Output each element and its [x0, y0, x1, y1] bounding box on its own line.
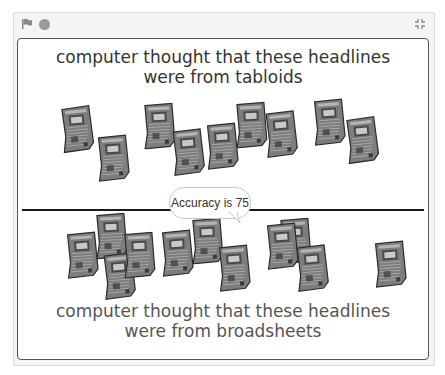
newspaper-sprite-broadsheet[interactable] — [121, 231, 157, 279]
newspaper-sprite-tabloid[interactable] — [58, 104, 97, 153]
flag-icon[interactable] — [21, 18, 33, 30]
tabloid-caption-line2: were from tabloids — [18, 67, 428, 87]
player-controls — [14, 13, 434, 35]
newspaper-sprite-broadsheet[interactable] — [371, 240, 408, 288]
tabloid-caption-line1: computer thought that these headlines — [18, 47, 428, 67]
newspaper-sprite-tabloid[interactable] — [343, 115, 382, 164]
broadsheet-caption-line1: computer thought that these headlines — [18, 301, 428, 321]
newspaper-sprite-tabloid[interactable] — [94, 134, 131, 182]
newspaper-sprite-tabloid[interactable] — [262, 110, 300, 159]
newspaper-sprite-tabloid[interactable] — [169, 128, 207, 177]
scratch-player: computer thought that these headlines we… — [13, 12, 435, 366]
newspaper-sprite-tabloid[interactable] — [310, 98, 347, 146]
broadsheet-caption: computer thought that these headlines we… — [18, 301, 428, 341]
stop-icon[interactable] — [39, 19, 50, 30]
speech-bubble-tail — [228, 211, 242, 225]
stage[interactable]: computer thought that these headlines we… — [17, 38, 429, 360]
tabloid-caption: computer thought that these headlines we… — [18, 47, 428, 87]
newspaper-sprite-broadsheet[interactable] — [293, 244, 331, 293]
fullscreen-icon[interactable] — [414, 18, 426, 30]
newspaper-sprite-broadsheet[interactable] — [215, 244, 252, 292]
broadsheet-caption-line2: were from broadsheets — [18, 321, 428, 341]
